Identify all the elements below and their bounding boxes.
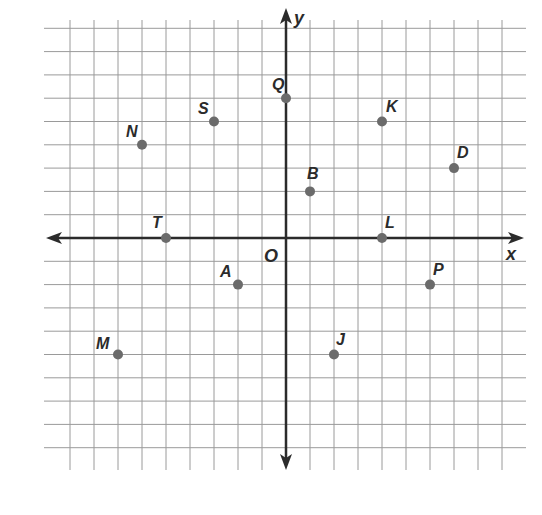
point-label: A xyxy=(219,263,232,280)
point-label: M xyxy=(96,335,110,352)
point-marker xyxy=(329,350,339,360)
point-label: Q xyxy=(272,76,285,93)
y-axis-label: y xyxy=(293,8,305,28)
point-marker xyxy=(137,140,147,150)
points: QSNTKDBLAMPJ xyxy=(96,76,469,359)
origin-label: O xyxy=(264,246,278,266)
point-marker xyxy=(449,163,459,173)
point-j: J xyxy=(329,331,346,360)
point-d: D xyxy=(449,144,469,173)
point-m: M xyxy=(96,335,123,360)
point-marker xyxy=(113,350,123,360)
point-label: J xyxy=(336,331,346,348)
point-k: K xyxy=(377,98,399,127)
point-s: S xyxy=(198,100,219,127)
point-label: S xyxy=(198,100,209,117)
point-label: N xyxy=(126,123,138,140)
point-a: A xyxy=(219,263,243,290)
point-label: L xyxy=(385,214,395,231)
point-marker xyxy=(305,186,315,196)
point-marker xyxy=(161,233,171,243)
point-q: Q xyxy=(272,76,291,103)
point-marker xyxy=(209,117,219,127)
point-marker xyxy=(425,280,435,290)
coordinate-plane: x y O QSNTKDBLAMPJ xyxy=(0,0,542,515)
point-marker xyxy=(377,233,387,243)
point-p: P xyxy=(425,261,444,290)
x-axis-label: x xyxy=(505,244,517,264)
point-label: B xyxy=(307,165,319,182)
point-marker xyxy=(377,117,387,127)
point-label: T xyxy=(152,214,163,231)
point-marker xyxy=(233,280,243,290)
point-label: D xyxy=(457,144,469,161)
point-label: K xyxy=(386,98,399,115)
point-label: P xyxy=(433,261,444,278)
point-n: N xyxy=(126,123,147,150)
point-marker xyxy=(281,93,291,103)
